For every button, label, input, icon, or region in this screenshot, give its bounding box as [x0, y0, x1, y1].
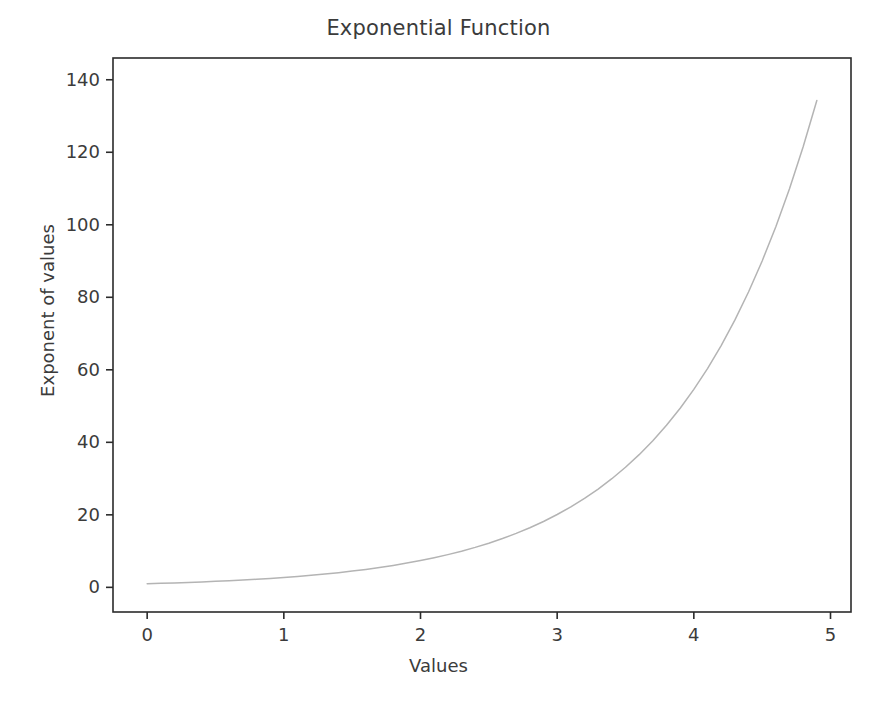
data-series-lines — [147, 100, 817, 583]
y-tick-label: 40 — [77, 431, 100, 452]
y-axis-ticks: 020406080100120140 — [66, 69, 113, 598]
y-tick-label: 60 — [77, 359, 100, 380]
x-tick-label: 3 — [551, 624, 562, 645]
y-tick-label: 0 — [89, 576, 100, 597]
x-tick-label: 1 — [278, 624, 289, 645]
axes-spines — [113, 58, 851, 612]
chart-figure: Exponential Function Exponent of values … — [0, 0, 877, 715]
x-tick-label: 0 — [141, 624, 152, 645]
x-tick-label: 5 — [825, 624, 836, 645]
y-tick-label: 100 — [66, 214, 100, 235]
x-tick-label: 2 — [415, 624, 426, 645]
y-tick-label: 120 — [66, 141, 100, 162]
plot-area: 012345 020406080100120140 — [0, 0, 877, 715]
series-line — [147, 100, 817, 583]
x-tick-label: 4 — [688, 624, 699, 645]
y-tick-label: 140 — [66, 69, 100, 90]
y-tick-label: 80 — [77, 286, 100, 307]
x-axis-ticks: 012345 — [141, 612, 836, 645]
y-tick-label: 20 — [77, 504, 100, 525]
